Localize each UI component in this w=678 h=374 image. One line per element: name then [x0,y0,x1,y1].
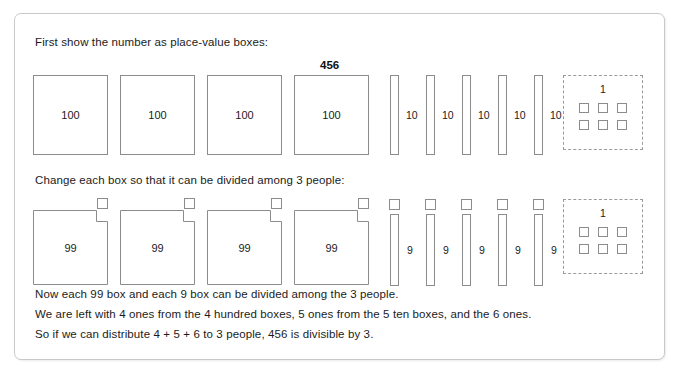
row2-ones-label: 1 [564,207,642,219]
cut-one-square [97,198,108,209]
ten-rod-label: 10 [442,109,454,121]
ten-rod [390,75,399,155]
hundred-box-label: 100 [61,109,79,121]
ninety-nine-box: 99 [33,210,108,285]
ten-rod [462,75,471,155]
ten-rod [534,75,543,155]
nine-rod [462,214,471,286]
cut-one-square [533,199,544,210]
ninety-nine-box: 99 [294,210,369,285]
figure-frame: First show the number as place-value box… [14,13,665,360]
one-square [617,103,627,113]
row2-ones-grid [579,227,627,254]
hundred-box-label: 100 [235,109,253,121]
cut-one-square [184,198,195,209]
one-square [579,103,589,113]
cut-one-square [389,199,400,210]
one-square [598,103,608,113]
hundred-box-label: 100 [148,109,166,121]
ninety-nine-box: 99 [120,210,195,285]
one-square [579,227,589,237]
ten-rod [498,75,507,155]
number-label: 456 [320,59,339,71]
ninety-nine-box-label: 99 [33,210,108,285]
hundred-box: 100 [33,75,108,155]
cut-one-square [497,199,508,210]
nine-rod-label: 9 [443,244,449,256]
row1-ones-grid [579,103,627,130]
cut-one-square [425,199,436,210]
row1-ones-group: 1 [563,75,643,150]
ten-rod-label: 10 [550,109,562,121]
row2-ones-group: 1 [563,199,643,274]
hundred-box: 100 [294,75,369,155]
nine-rod-label: 9 [515,244,521,256]
nine-rod [390,214,399,286]
cut-one-square [461,199,472,210]
nine-rod [498,214,507,286]
conclusion-line-3: So if we can distribute 4 + 5 + 6 to 3 p… [35,328,373,341]
one-square [598,244,608,254]
conclusion-line-1: Now each 99 box and each 9 box can be di… [35,288,399,301]
ten-rod-label: 10 [406,109,418,121]
ninety-nine-box-label: 99 [120,210,195,285]
cut-one-square [358,198,369,209]
one-square [598,227,608,237]
nine-rod [426,214,435,286]
cut-one-square [271,198,282,209]
hundred-box: 100 [207,75,282,155]
one-square [579,244,589,254]
one-square [617,244,627,254]
nine-rod-label: 9 [479,244,485,256]
hundred-box-label: 100 [322,109,340,121]
ten-rod [426,75,435,155]
nine-rod-label: 9 [407,244,413,256]
one-square [617,227,627,237]
nine-rod-label: 9 [551,244,557,256]
one-square [617,120,627,130]
ninety-nine-box-label: 99 [294,210,369,285]
instruction-line-middle: Change each box so that it can be divide… [35,174,345,187]
ten-rod-label: 10 [514,109,526,121]
ten-rod-label: 10 [478,109,490,121]
ninety-nine-box-label: 99 [207,210,282,285]
one-square [598,120,608,130]
instruction-line-top: First show the number as place-value box… [35,36,268,49]
row1-ones-label: 1 [564,83,642,95]
ninety-nine-box: 99 [207,210,282,285]
conclusion-line-2: We are left with 4 ones from the 4 hundr… [35,308,531,321]
nine-rod [534,214,543,286]
one-square [579,120,589,130]
hundred-box: 100 [120,75,195,155]
